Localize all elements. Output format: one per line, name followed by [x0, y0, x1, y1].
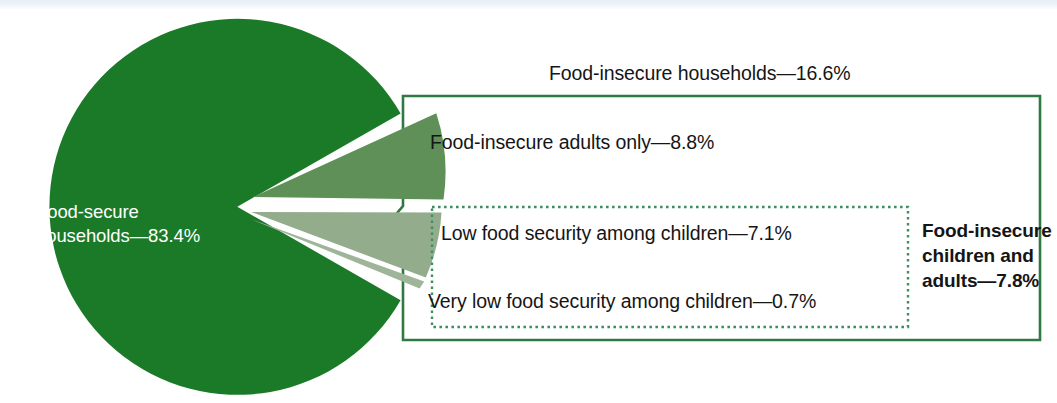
callout-label-food-insecure-adults-only: Food-insecure adults only—8.8%	[430, 131, 714, 155]
callout-label-food-insecure-children-and-adults: Food-insecure children and adults—7.8%	[922, 218, 1052, 293]
callout-label-low-food-security-children: Low food security among children—7.1%	[441, 222, 792, 246]
callout-label-food-insecure-households: Food-insecure households—16.6%	[549, 62, 851, 86]
pie-label-food-secure: Food-secure households—83.4%	[36, 200, 200, 248]
figure-canvas: Food-secure households—83.4% Food-insecu…	[0, 0, 1057, 403]
callout-label-very-low-food-security-children: Very low food security among children—0.…	[428, 290, 816, 314]
